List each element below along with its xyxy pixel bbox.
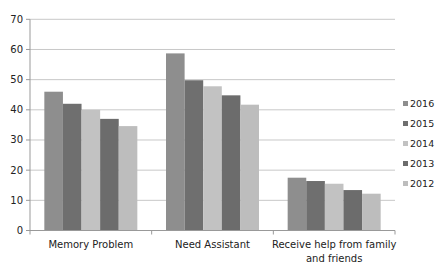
y-tick-label: 30 <box>10 134 23 145</box>
legend-label-2012: 2012 <box>410 178 434 189</box>
bar-2015-2 <box>306 181 325 230</box>
bar-2013-1 <box>222 95 241 230</box>
legend-label-2016: 2016 <box>410 98 434 109</box>
y-tick-label: 0 <box>17 225 23 236</box>
y-tick-label: 10 <box>10 195 23 206</box>
bar-2014-0 <box>82 110 101 231</box>
y-tick-label: 60 <box>10 44 23 55</box>
bar-2014-2 <box>325 184 344 231</box>
legend-swatch-2016 <box>403 101 408 106</box>
bar-2013-2 <box>343 190 362 230</box>
y-tick-label: 40 <box>10 104 23 115</box>
bar-2016-2 <box>288 178 307 231</box>
legend-swatch-2015 <box>403 121 408 126</box>
legend-label-2015: 2015 <box>410 118 434 129</box>
bar-2016-1 <box>166 53 185 230</box>
bar-2013-0 <box>100 119 119 231</box>
x-category-label: Need Assistant <box>175 239 250 250</box>
x-category-label: Memory Problem <box>48 239 133 250</box>
x-category-label: and friends <box>306 253 362 264</box>
y-tick-label: 70 <box>10 14 23 25</box>
bar-2015-0 <box>63 104 82 231</box>
x-category-label: Receive help from family <box>272 239 397 250</box>
y-axis-ticks: 010203040506070 <box>10 14 30 236</box>
x-axis-labels: Memory ProblemNeed AssistantReceive help… <box>48 239 396 264</box>
legend-label-2013: 2013 <box>410 158 434 169</box>
legend-swatch-2013 <box>403 161 408 166</box>
legend-swatch-2014 <box>403 141 408 146</box>
y-tick-label: 20 <box>10 165 23 176</box>
bar-2012-2 <box>362 194 381 231</box>
legend: 20162015201420132012 <box>403 98 434 189</box>
bar-2014-1 <box>203 86 222 230</box>
legend-swatch-2012 <box>403 181 408 186</box>
y-tick-label: 50 <box>10 74 23 85</box>
legend-label-2014: 2014 <box>410 138 434 149</box>
bar-2012-0 <box>119 126 138 230</box>
bar-2016-0 <box>44 92 63 231</box>
bar-2012-1 <box>240 105 259 231</box>
bar-2015-1 <box>185 80 204 230</box>
bar-chart: 010203040506070 Memory ProblemNeed Assis… <box>0 0 441 278</box>
